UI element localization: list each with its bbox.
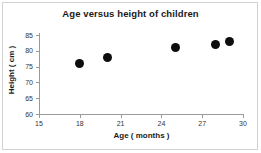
x-tick-mark [202, 114, 203, 118]
x-tick-label: 27 [192, 120, 212, 127]
y-tick-mark [36, 82, 40, 83]
x-axis-line [39, 114, 244, 115]
x-tick-mark [121, 114, 122, 118]
y-tick-mark [36, 67, 40, 68]
y-tick-label: 85 [25, 32, 33, 39]
plot-area: 606570758085 151821242730 [39, 35, 243, 114]
y-tick-label: 60 [25, 111, 33, 118]
x-tick-mark [161, 114, 162, 118]
y-tick-label: 70 [25, 79, 33, 86]
x-tick-label: 18 [70, 120, 90, 127]
y-tick-label: 65 [25, 95, 33, 102]
data-point [171, 43, 180, 52]
x-tick-label: 15 [29, 120, 49, 127]
data-point [225, 37, 234, 46]
y-tick-label: 75 [25, 63, 33, 70]
chart-title: Age versus height of children [0, 8, 261, 19]
x-tick-mark [243, 114, 244, 118]
x-tick-mark [39, 114, 40, 118]
x-tick-label: 24 [151, 120, 171, 127]
y-axis-title-label: Height ( cm ) [6, 32, 18, 108]
y-tick-mark [36, 51, 40, 52]
data-point [75, 59, 84, 68]
x-tick-label: 30 [233, 120, 253, 127]
x-tick-mark [80, 114, 81, 118]
x-axis-title: Age ( months ) [39, 131, 244, 140]
y-tick-mark [36, 35, 40, 36]
y-tick-label: 80 [25, 47, 33, 54]
y-axis-title: Height ( cm ) [6, 32, 18, 108]
chart-screenshot: Age versus height of children Height ( c… [0, 0, 261, 153]
y-tick-mark [36, 98, 40, 99]
data-point [103, 53, 112, 62]
data-point [211, 40, 220, 49]
x-tick-label: 21 [111, 120, 131, 127]
